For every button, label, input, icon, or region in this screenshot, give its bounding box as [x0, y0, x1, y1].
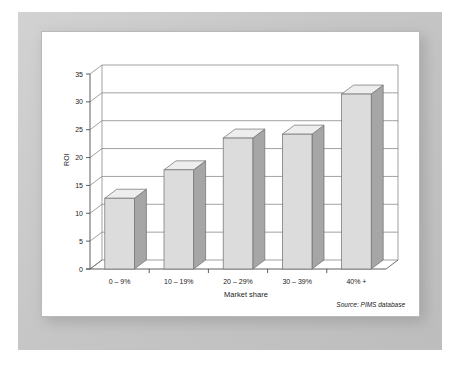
- x-axis-title: Market share: [86, 290, 406, 299]
- bar-side-face: [194, 161, 206, 269]
- y-tick-label: 25: [75, 126, 83, 133]
- y-tick-depth-line: [90, 65, 102, 74]
- y-tick-depth-line: [90, 149, 102, 158]
- y-tick-label: 30: [75, 98, 83, 105]
- x-category-label: 20 – 29%: [223, 278, 253, 285]
- bar-front-face: [164, 170, 194, 269]
- chart-panel: 05101520253035 0 – 9%10 – 19%20 – 29%30 …: [41, 31, 420, 317]
- bar-side-face: [371, 85, 383, 269]
- y-tick-depth-line: [90, 176, 102, 185]
- bar-chart-svg: 05101520253035 0 – 9%10 – 19%20 – 29%30 …: [42, 32, 421, 318]
- x-category-label: 40% +: [346, 278, 366, 285]
- y-tick-label: 0: [79, 266, 83, 273]
- bar: [164, 161, 206, 269]
- bar-front-face: [223, 138, 253, 269]
- y-tick-labels: 05101520253035: [75, 71, 83, 273]
- bar-side-face: [134, 189, 146, 269]
- bar-series: [105, 85, 383, 269]
- floor-depth-edge-right: [386, 260, 398, 269]
- y-tick-depth-line: [90, 260, 102, 269]
- source-note: Source: PIMS database: [336, 301, 405, 308]
- y-tick-label: 10: [75, 210, 83, 217]
- y-tick-depth-line: [90, 204, 102, 213]
- plot-area: 05101520253035 0 – 9%10 – 19%20 – 29%30 …: [42, 32, 421, 318]
- y-tick-label: 35: [75, 71, 83, 78]
- y-tick-label: 5: [79, 238, 83, 245]
- y-tick-depth-line: [90, 93, 102, 102]
- bar: [105, 189, 147, 269]
- bar: [342, 85, 384, 269]
- x-category-labels: 0 – 9%10 – 19%20 – 29%30 – 39%40% +: [109, 278, 367, 285]
- y-tick-depth-line: [90, 232, 102, 241]
- bar-front-face: [342, 94, 372, 269]
- bar: [282, 125, 324, 269]
- x-category-label: 0 – 9%: [109, 278, 131, 285]
- bar-side-face: [312, 125, 324, 269]
- bar: [223, 129, 265, 269]
- x-category-label: 10 – 19%: [164, 278, 194, 285]
- y-tick-label: 20: [75, 154, 83, 161]
- y-tick-label: 15: [75, 182, 83, 189]
- x-category-label: 30 – 39%: [282, 278, 312, 285]
- bar-front-face: [105, 198, 135, 269]
- x-axis: [86, 269, 386, 273]
- bar-front-face: [282, 134, 312, 269]
- y-tick-depth-line: [90, 121, 102, 130]
- figure-root: 05101520253035 0 – 9%10 – 19%20 – 29%30 …: [0, 0, 465, 366]
- y-axis: [86, 65, 102, 269]
- bar-side-face: [253, 129, 265, 269]
- y-axis-title: ROI: [63, 130, 70, 190]
